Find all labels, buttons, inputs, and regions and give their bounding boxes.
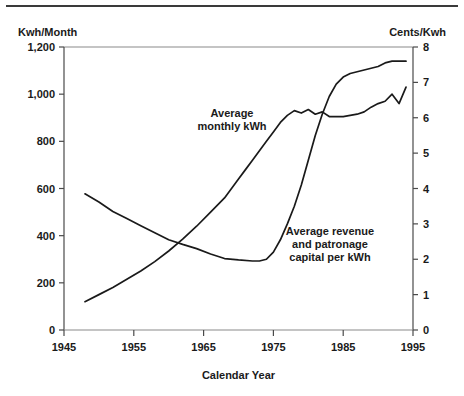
y-axis-right-tick-label: 6	[423, 112, 429, 124]
y-axis-left-tick-label: 200	[37, 277, 55, 289]
y-axis-right-tick-label: 7	[423, 76, 429, 88]
annot-revenue: Average revenueand patronagecapital per …	[286, 225, 374, 263]
dual-axis-line-chart: 02004006008001,0001,20001234567819451955…	[0, 0, 464, 396]
y-axis-right-tick-label: 4	[423, 183, 430, 195]
y-axis-left-tick-label: 0	[49, 324, 55, 336]
x-axis-title: Calendar Year	[202, 369, 276, 381]
chart-figure: 02004006008001,0001,20001234567819451955…	[0, 0, 464, 396]
x-axis-tick-label: 1975	[261, 341, 285, 353]
annot-kwh: Averagemonthly kWh	[197, 107, 266, 132]
y-axis-right-title: Cents/Kwh	[389, 26, 446, 38]
annot-kwh-line: monthly kWh	[197, 120, 266, 132]
annot-kwh-line: Average	[210, 107, 253, 119]
x-axis-tick-label: 1945	[52, 341, 76, 353]
annot-revenue-line: and patronage	[292, 238, 368, 250]
y-axis-left-tick-label: 1,200	[27, 41, 55, 53]
annot-revenue-line: capital per kWh	[289, 251, 371, 263]
y-axis-left-tick-label: 1,000	[27, 88, 55, 100]
x-axis-tick-label: 1995	[401, 341, 425, 353]
y-axis-left-title: Kwh/Month	[18, 26, 78, 38]
x-axis-tick-label: 1955	[122, 341, 146, 353]
y-axis-right-tick-label: 1	[423, 289, 429, 301]
y-axis-right-tick-label: 0	[423, 324, 429, 336]
y-axis-right-tick-label: 8	[423, 41, 429, 53]
y-axis-right-tick-label: 5	[423, 147, 429, 159]
y-axis-left-tick-label: 800	[37, 135, 55, 147]
x-axis-tick-label: 1965	[191, 341, 215, 353]
y-axis-left-tick-label: 600	[37, 183, 55, 195]
y-axis-right-tick-label: 2	[423, 253, 429, 265]
y-axis-left-tick-label: 400	[37, 230, 55, 242]
annot-revenue-line: Average revenue	[286, 225, 374, 237]
x-axis-tick-label: 1985	[331, 341, 355, 353]
y-axis-right-tick-label: 3	[423, 218, 429, 230]
